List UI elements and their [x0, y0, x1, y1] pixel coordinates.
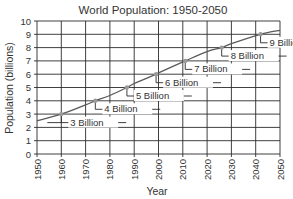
y-tick-label: 2 [26, 122, 31, 133]
y-axis-ticks: 012345678910 [20, 16, 31, 160]
x-axis-label: Year [146, 185, 168, 197]
y-tick-label: 0 [26, 149, 31, 160]
y-tick-label: 5 [26, 82, 31, 93]
y-tick-label: 10 [20, 16, 31, 27]
milestone-label: 7 Billion [194, 63, 227, 74]
milestone-marker [154, 72, 158, 76]
x-tick-label: 2010 [177, 159, 188, 180]
chart-title: World Population: 1950-2050 [79, 4, 228, 16]
milestone-marker [258, 32, 262, 36]
x-tick-label: 1990 [129, 159, 140, 180]
milestone-label: 9 Billion [270, 37, 293, 48]
milestone-label: 5 Billion [136, 90, 169, 101]
y-tick-label: 7 [26, 55, 31, 66]
x-tick-label: 2040 [250, 159, 261, 180]
x-tick-label: 1980 [104, 159, 115, 180]
milestone-label: 6 Billion [165, 77, 198, 88]
milestone-marker [219, 45, 223, 49]
y-tick-label: 6 [26, 69, 31, 80]
x-tick-label: 2000 [153, 159, 164, 180]
y-tick-label: 3 [26, 109, 31, 120]
x-tick-label: 2050 [275, 159, 286, 180]
y-axis-label: Population (billions) [3, 42, 15, 134]
milestone-marker [183, 59, 187, 63]
y-tick-label: 8 [26, 42, 31, 53]
y-tick-label: 4 [26, 95, 31, 106]
milestone-marker [59, 112, 63, 116]
world-population-chart: World Population: 1950-2050 012345678910… [0, 0, 293, 199]
milestone-label: 8 Billion [231, 50, 264, 61]
milestone-marker [125, 85, 129, 89]
x-axis-ticks: 1950196019701980199020002010202020302040… [32, 159, 286, 180]
x-tick-label: 2020 [202, 159, 213, 180]
milestone-label: 3 Billion [70, 117, 103, 128]
grid-lines [34, 21, 280, 157]
x-tick-label: 1950 [32, 159, 43, 180]
x-tick-label: 1970 [80, 159, 91, 180]
y-tick-label: 1 [26, 135, 31, 146]
milestone-marker [93, 99, 97, 103]
y-tick-label: 9 [26, 29, 31, 40]
x-tick-label: 2030 [226, 159, 237, 180]
chart-canvas: World Population: 1950-2050 012345678910… [0, 0, 293, 199]
x-tick-label: 1960 [56, 159, 67, 180]
milestone-label: 4 Billion [104, 103, 137, 114]
